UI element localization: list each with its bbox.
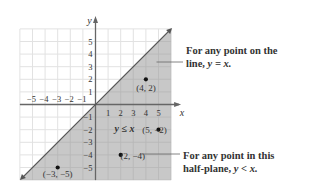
y-tick-label: −2 xyxy=(83,125,92,135)
region-label: y ≤ x xyxy=(114,123,135,134)
point-label: (4, 2) xyxy=(136,83,156,93)
callout-line-text-1: For any point on the xyxy=(186,45,277,56)
x-tick-label: −3 xyxy=(52,94,61,104)
x-tick-label: −4 xyxy=(40,94,50,104)
callout-plane-text-2: half-plane, xyxy=(183,163,234,174)
x-tick-label: 3 xyxy=(131,108,135,118)
y-tick-label: −4 xyxy=(83,150,93,160)
x-tick-label: −5 xyxy=(27,94,36,104)
data-point xyxy=(144,77,148,81)
callout-half-plane: For any point in this half-plane, y < x. xyxy=(183,149,274,175)
x-tick-label: −1 xyxy=(77,94,86,104)
callout-line-equation: y = x. xyxy=(208,58,232,69)
point-label: (5, −2) xyxy=(142,125,167,135)
x-tick-label: 2 xyxy=(119,108,123,118)
callout-line: For any point on the line, y = x. xyxy=(186,44,277,70)
callout-plane-text-1: For any point in this xyxy=(183,150,274,161)
y-tick-label: 2 xyxy=(88,74,92,84)
y-tick-label: −1 xyxy=(83,112,92,122)
y-tick-label: 1 xyxy=(88,87,92,97)
y-tick-label: 5 xyxy=(88,37,92,47)
y-axis-arrow-icon xyxy=(93,16,98,23)
callout-plane-equation: y < x. xyxy=(234,163,258,174)
y-tick-label: −5 xyxy=(83,163,92,173)
point-label: (2, −4) xyxy=(120,151,145,161)
x-tick-label: 5 xyxy=(156,108,160,118)
y-axis-label: y xyxy=(86,15,92,26)
y-tick-label: −3 xyxy=(83,137,92,147)
x-tick-label: −2 xyxy=(65,94,74,104)
y-tick-label: 3 xyxy=(88,62,92,72)
x-axis-label: x xyxy=(179,107,185,118)
callout-line-text-2: line, xyxy=(186,58,208,69)
x-tick-label: 1 xyxy=(106,108,110,118)
x-tick-label: 4 xyxy=(144,108,149,118)
point-label: (−3, −5) xyxy=(43,169,73,179)
